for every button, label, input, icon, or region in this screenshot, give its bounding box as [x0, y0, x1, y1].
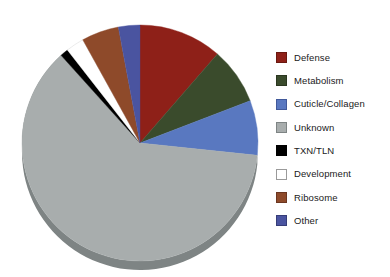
legend-item-txn-tln[interactable]: TXN/TLN — [276, 139, 390, 162]
legend-item-label: Metabolism — [294, 76, 344, 86]
legend-item-unknown[interactable]: Unknown — [276, 116, 390, 139]
pie-chart-plot-area: Defense: 11.4%Metabolism: 7.8%Cuticle/Co… — [0, 0, 272, 277]
chart-legend: DefenseMetabolismCuticle/CollagenUnknown… — [276, 46, 390, 232]
legend-swatch-icon — [276, 169, 287, 180]
legend-swatch-icon — [276, 99, 287, 110]
legend-item-ribosome[interactable]: Ribosome — [276, 186, 390, 209]
legend-item-label: Defense — [294, 53, 330, 63]
legend-item-label: Development — [294, 169, 351, 179]
legend-item-label: Other — [294, 216, 318, 226]
legend-item-metabolism[interactable]: Metabolism — [276, 69, 390, 92]
pie-chart-svg: Defense: 11.4%Metabolism: 7.8%Cuticle/Co… — [0, 0, 272, 277]
legend-item-other[interactable]: Other — [276, 209, 390, 232]
legend-swatch-icon — [276, 215, 287, 226]
legend-swatch-icon — [276, 145, 287, 156]
legend-item-label: Ribosome — [294, 193, 338, 203]
pie-chart-figure: Defense: 11.4%Metabolism: 7.8%Cuticle/Co… — [0, 0, 390, 277]
legend-item-defense[interactable]: Defense — [276, 46, 390, 69]
legend-swatch-icon — [276, 192, 287, 203]
legend-swatch-icon — [276, 122, 287, 133]
pie-slices-layer: Defense: 11.4%Metabolism: 7.8%Cuticle/Co… — [22, 25, 258, 261]
legend-item-label: Unknown — [294, 123, 334, 133]
legend-item-cuticle-collagen[interactable]: Cuticle/Collagen — [276, 93, 390, 116]
legend-swatch-icon — [276, 52, 287, 63]
legend-swatch-icon — [276, 75, 287, 86]
legend-item-label: Cuticle/Collagen — [294, 99, 365, 109]
legend-item-development[interactable]: Development — [276, 162, 390, 185]
legend-item-label: TXN/TLN — [294, 146, 334, 156]
